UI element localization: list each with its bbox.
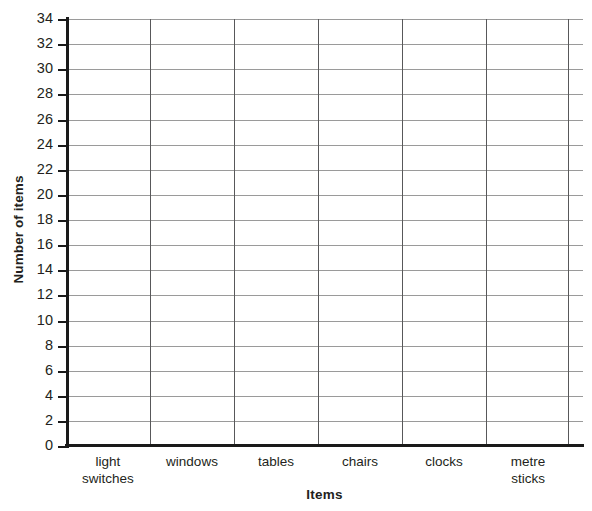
x-axis-line <box>65 444 584 447</box>
x-label-line-1: metre <box>511 454 546 469</box>
gridline-horizontal <box>66 270 583 271</box>
gridline-horizontal <box>66 220 583 221</box>
x-label-line-1: clocks <box>425 454 463 469</box>
y-tick-label: 16 <box>13 237 53 251</box>
gridline-horizontal <box>66 396 583 397</box>
x-tick-label-tables: tables <box>234 453 318 470</box>
y-tick-mark <box>58 245 67 247</box>
plot-area <box>66 19 583 446</box>
gridline-vertical <box>234 19 235 446</box>
gridline-horizontal <box>66 94 583 95</box>
y-tick-label: 4 <box>13 388 53 402</box>
gridline-horizontal <box>66 346 583 347</box>
x-label-line-1: windows <box>166 454 218 469</box>
y-tick-label: 12 <box>13 287 53 301</box>
y-tick-label: 30 <box>13 61 53 75</box>
y-tick-label: 6 <box>13 363 53 377</box>
y-tick-mark <box>58 270 67 272</box>
y-tick-mark <box>58 44 67 46</box>
y-tick-mark <box>58 396 67 398</box>
x-tick-label-chairs: chairs <box>318 453 402 470</box>
y-tick-label: 2 <box>13 413 53 427</box>
gridline-horizontal <box>66 195 583 196</box>
gridline-horizontal <box>66 120 583 121</box>
y-tick-label: 0 <box>13 438 53 452</box>
y-tick-mark <box>58 421 67 423</box>
y-tick-label: 34 <box>13 11 53 25</box>
y-tick-label: 22 <box>13 162 53 176</box>
gridline-horizontal <box>66 170 583 171</box>
y-tick-label: 14 <box>13 262 53 276</box>
y-tick-label: 10 <box>13 313 53 327</box>
y-tick-mark <box>58 446 67 448</box>
gridline-vertical <box>318 19 319 446</box>
gridline-horizontal <box>66 321 583 322</box>
y-tick-mark <box>58 321 67 323</box>
bar-chart: Number of items <box>0 0 592 511</box>
gridline-horizontal <box>66 44 583 45</box>
gridline-horizontal <box>66 295 583 296</box>
y-tick-mark <box>58 195 67 197</box>
x-axis-title: Items <box>66 487 583 502</box>
y-tick-mark <box>58 94 67 96</box>
gridline-vertical <box>402 19 403 446</box>
y-tick-mark <box>58 145 67 147</box>
y-tick-label: 18 <box>13 212 53 226</box>
gridline-vertical <box>486 19 487 446</box>
y-tick-mark <box>58 346 67 348</box>
x-label-line-2: sticks <box>486 470 570 487</box>
y-tick-mark <box>58 120 67 122</box>
y-tick-mark <box>58 69 67 71</box>
y-tick-mark <box>58 19 67 21</box>
gridline-vertical <box>150 19 151 446</box>
y-tick-mark <box>58 170 67 172</box>
x-tick-label-light-switches: light switches <box>66 453 150 487</box>
y-tick-label: 8 <box>13 338 53 352</box>
y-tick-label: 24 <box>13 137 53 151</box>
gridline-horizontal <box>66 245 583 246</box>
x-label-line-2: switches <box>66 470 150 487</box>
y-tick-mark <box>58 220 67 222</box>
y-axis-line <box>66 17 69 448</box>
y-tick-label: 26 <box>13 112 53 126</box>
y-tick-label: 20 <box>13 187 53 201</box>
x-label-line-1: tables <box>258 454 294 469</box>
gridline-horizontal <box>66 371 583 372</box>
gridline-horizontal <box>66 69 583 70</box>
gridline-horizontal <box>66 145 583 146</box>
x-tick-label-metre-sticks: metre sticks <box>486 453 570 487</box>
x-tick-label-windows: windows <box>150 453 234 470</box>
gridline-vertical <box>568 19 569 446</box>
y-tick-mark <box>58 371 67 373</box>
x-label-line-1: chairs <box>342 454 378 469</box>
gridline-horizontal <box>66 19 583 20</box>
y-tick-mark <box>58 295 67 297</box>
y-tick-label: 32 <box>13 36 53 50</box>
x-label-line-1: light <box>96 454 121 469</box>
x-tick-label-clocks: clocks <box>402 453 486 470</box>
y-tick-label: 28 <box>13 86 53 100</box>
gridline-horizontal <box>66 421 583 422</box>
